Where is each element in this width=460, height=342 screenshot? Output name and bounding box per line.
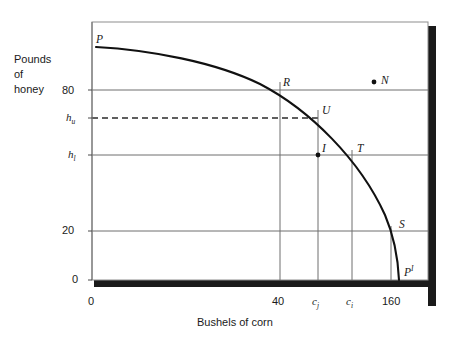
figure-container: Pounds of honey 80 hu hl 20 0 0 40 cj ci… [0,0,460,342]
y-axis-title-line-2: of [14,67,51,82]
x-tick-ci-sub: i [351,301,353,310]
x-axis-title: Bushels of corn [197,316,273,329]
point-label-I: I [322,142,326,156]
x-tick-label-160: 160 [382,295,400,308]
plot-frame [92,22,428,280]
frame-shadow-bottom [94,280,436,287]
point-dot-N [372,80,377,85]
x-tick-label-40: 40 [272,295,284,308]
y-axis-title-line-3: honey [14,82,51,97]
y-tick-hu-sub: u [72,117,76,126]
point-label-P-prime: PI [404,265,414,279]
x-tick-label-cj: cj [312,295,319,311]
point-label-P: P [96,33,103,47]
x-tick-label-ci: ci [346,295,353,311]
point-label-P-prime-base: P [404,266,411,278]
chart-canvas [0,0,460,342]
point-label-R: R [283,76,290,90]
y-axis-title: Pounds of honey [14,52,51,97]
point-label-S: S [399,218,405,232]
x-tick-cj-sub: j [317,301,319,310]
y-tick-hl-sub: l [74,154,76,163]
point-dot-I [316,153,321,158]
y-tick-label-80: 80 [62,84,74,97]
point-label-P-prime-mark: I [411,264,414,273]
point-label-U: U [322,104,330,118]
x-tick-label-0: 0 [88,295,94,308]
y-axis-title-line-1: Pounds [14,52,51,67]
y-tick-label-hu: hu [66,111,75,127]
y-tick-label-hl: hl [68,148,76,164]
y-tick-label-20: 20 [62,224,74,237]
frame-shadow-right [428,26,436,306]
y-tick-label-0: 0 [72,273,78,286]
point-label-T: T [357,142,363,156]
point-label-N: N [381,74,389,88]
